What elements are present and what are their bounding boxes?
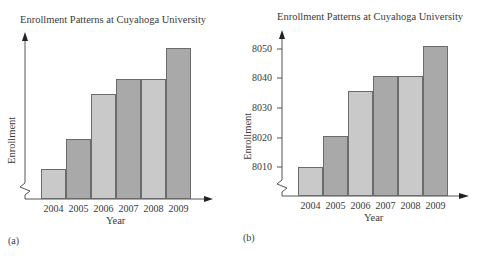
x-tick-label: 2009 [423, 200, 448, 211]
x-tick-label: 2007 [373, 200, 398, 211]
y-tick-label: 8020 [252, 132, 272, 143]
bar-2007 [373, 76, 398, 196]
x-axis-label: Year [364, 212, 383, 223]
panel-label: (b) [243, 232, 255, 243]
bar-2006 [348, 91, 373, 196]
bar-2007 [116, 79, 141, 199]
bar-2005 [66, 139, 91, 199]
bar-2006 [91, 94, 116, 199]
chart-panel-a: Enrollment Patterns at Cuyahoga Universi… [0, 0, 240, 259]
chart-panel-b: Enrollment Patterns at Cuyahoga Universi… [240, 0, 479, 259]
x-axis-label: Year [106, 215, 125, 226]
bar-2009 [423, 46, 448, 196]
x-tick-label: 2008 [141, 203, 166, 214]
y-tick-label: 8050 [252, 43, 272, 54]
y-axis-label: Enrollment [242, 113, 253, 160]
bar-2004 [298, 167, 323, 196]
bar-2009 [166, 48, 191, 199]
x-tick-label: 2008 [398, 200, 423, 211]
y-axis-label: Enrollment [6, 117, 17, 164]
bar-2008 [141, 79, 166, 199]
bar-2004 [41, 169, 66, 199]
x-tick-label: 2009 [166, 203, 191, 214]
panel-label: (a) [8, 235, 19, 246]
y-tick-label: 8040 [252, 72, 272, 83]
x-tick-label: 2005 [66, 203, 91, 214]
bar-2005 [323, 136, 348, 196]
x-tick-label: 2004 [41, 203, 66, 214]
bar-2008 [398, 76, 423, 196]
x-tick-label: 2004 [298, 200, 323, 211]
x-tick-label: 2005 [323, 200, 348, 211]
x-tick-label: 2006 [348, 200, 373, 211]
x-tick-label: 2006 [91, 203, 116, 214]
y-tick-label: 8010 [252, 161, 272, 172]
y-tick-label: 8030 [252, 102, 272, 113]
x-tick-label: 2007 [116, 203, 141, 214]
